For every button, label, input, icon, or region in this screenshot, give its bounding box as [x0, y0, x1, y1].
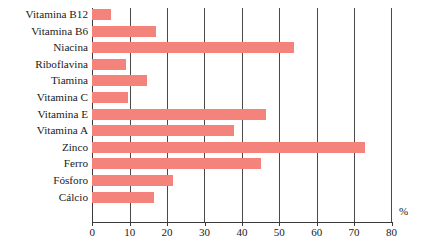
bar-row: Vitamina B12 [0, 9, 431, 26]
x-tick-label: 70 [349, 227, 360, 238]
bar [92, 125, 234, 136]
bar [92, 158, 260, 169]
tick-mark-60 [317, 222, 318, 226]
bar-row: Vitamina E [0, 109, 431, 126]
tick-mark-40 [242, 222, 243, 226]
bar [92, 192, 154, 203]
category-label: Vitamina E [0, 109, 88, 120]
category-label: Vitamina A [0, 125, 88, 136]
tick-mark-50 [279, 222, 280, 226]
x-tick-label: 40 [236, 227, 247, 238]
tick-mark-10 [130, 222, 131, 226]
category-label: Vitamina B6 [0, 26, 88, 37]
bar-row: Vitamina B6 [0, 26, 431, 43]
bar-row: Riboflavina [0, 59, 431, 76]
bar-row: Ferro [0, 158, 431, 175]
bar-chart: Vitamina B12Vitamina B6NiacinaRiboflavin… [0, 0, 431, 252]
x-tick-label: 50 [274, 227, 285, 238]
bar-row: Cálcio [0, 192, 431, 209]
x-tick-label: 60 [311, 227, 322, 238]
bar [92, 109, 266, 120]
bar-row: Vitamina C [0, 92, 431, 109]
category-label: Cálcio [0, 192, 88, 203]
bar [92, 9, 111, 20]
tick-mark-80 [392, 222, 393, 226]
tick-mark-0 [92, 222, 93, 226]
bar [92, 59, 126, 70]
x-tick-label: 0 [90, 227, 96, 238]
bar [92, 142, 365, 153]
bar-row: Zinco [0, 142, 431, 159]
tick-mark-20 [167, 222, 168, 226]
bar [92, 75, 146, 86]
category-label: Fósforo [0, 175, 88, 186]
tick-mark-70 [354, 222, 355, 226]
tick-mark-30 [205, 222, 206, 226]
bar [92, 92, 128, 103]
bar-row: Vitamina A [0, 125, 431, 142]
category-label: Zinco [0, 142, 88, 153]
bar-row: Niacina [0, 42, 431, 59]
x-tick-label: 10 [124, 227, 135, 238]
bar [92, 42, 294, 53]
category-label: Ferro [0, 158, 88, 169]
category-label: Riboflavina [0, 59, 88, 70]
x-tick-label: 80 [386, 227, 397, 238]
x-tick-label: 20 [162, 227, 173, 238]
x-tick-label: 30 [199, 227, 210, 238]
bar [92, 175, 172, 186]
bar-row: Tiamina [0, 75, 431, 92]
category-label: Vitamina C [0, 92, 88, 103]
bar [92, 26, 156, 37]
x-axis-unit-label: % [399, 206, 408, 217]
category-label: Tiamina [0, 75, 88, 86]
category-label: Vitamina B12 [0, 9, 88, 20]
category-label: Niacina [0, 42, 88, 53]
bar-row: Fósforo [0, 175, 431, 192]
